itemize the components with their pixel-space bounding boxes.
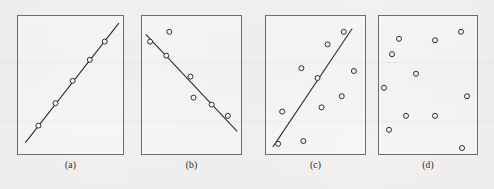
data-point-marker (465, 94, 470, 99)
data-point-marker (36, 123, 41, 128)
panel-a (17, 15, 124, 155)
data-point (459, 29, 464, 34)
panel-a-caption: (a) (17, 160, 124, 170)
data-point (70, 78, 75, 83)
data-point (164, 53, 169, 58)
data-point (460, 146, 465, 151)
data-point-marker (351, 69, 356, 74)
data-point (341, 29, 346, 34)
data-point-marker (315, 76, 320, 81)
data-point (191, 95, 196, 100)
data-point (433, 113, 438, 118)
trend-line (273, 29, 352, 147)
data-point-marker (299, 66, 304, 71)
data-point-marker (404, 113, 409, 118)
panel-b (141, 15, 242, 155)
panel-a-plot (17, 15, 124, 155)
data-point-marker (53, 101, 58, 106)
data-point (301, 139, 306, 144)
data-point (465, 94, 470, 99)
data-point (280, 109, 285, 114)
data-point (102, 39, 107, 44)
data-point (167, 29, 172, 34)
data-point-marker (397, 36, 402, 41)
data-point (404, 113, 409, 118)
data-point (209, 102, 214, 107)
data-point-marker (167, 29, 172, 34)
panel-b-caption: (b) (141, 160, 242, 170)
data-point (397, 36, 402, 41)
data-point-marker (102, 39, 107, 44)
panel-b-plot (141, 15, 242, 155)
data-point (225, 113, 230, 118)
data-point (276, 141, 281, 146)
data-point-marker (148, 39, 153, 44)
panel-d (378, 15, 478, 155)
data-point-marker (276, 141, 281, 146)
data-point-marker (433, 38, 438, 43)
data-point (87, 57, 92, 62)
panel-c (265, 15, 366, 155)
data-point-marker (341, 29, 346, 34)
data-point-marker (209, 102, 214, 107)
data-point-marker (225, 113, 230, 118)
data-point-marker (460, 146, 465, 151)
data-point-marker (164, 53, 169, 58)
data-point-marker (188, 74, 193, 79)
data-point (414, 71, 419, 76)
data-point (351, 69, 356, 74)
data-point-marker (70, 78, 75, 83)
data-point (382, 85, 387, 90)
data-point (433, 38, 438, 43)
data-point (387, 127, 392, 132)
data-point (299, 66, 304, 71)
data-point-marker (382, 85, 387, 90)
data-point-marker (301, 139, 306, 144)
data-point-marker (325, 42, 330, 47)
data-point (319, 105, 324, 110)
panel-c-plot (265, 15, 366, 155)
data-point (148, 39, 153, 44)
data-point-marker (280, 109, 285, 114)
data-point-marker (87, 57, 92, 62)
data-point (36, 123, 41, 128)
data-point-marker (390, 52, 395, 57)
panel-c-caption: (c) (265, 160, 366, 170)
data-point (188, 74, 193, 79)
data-point-marker (433, 113, 438, 118)
data-point (390, 52, 395, 57)
panel-d-plot (378, 15, 478, 155)
data-point (325, 42, 330, 47)
data-point-marker (459, 29, 464, 34)
correlation-scatterplot-figure: (a) (b) (c) (d) (0, 0, 494, 189)
data-point-marker (339, 94, 344, 99)
data-point (339, 94, 344, 99)
data-point-marker (414, 71, 419, 76)
trend-line (146, 35, 237, 132)
data-point-marker (319, 105, 324, 110)
panel-d-caption: (d) (378, 160, 478, 170)
data-point-marker (191, 95, 196, 100)
data-point (315, 76, 320, 81)
data-point-marker (387, 127, 392, 132)
data-point (53, 101, 58, 106)
